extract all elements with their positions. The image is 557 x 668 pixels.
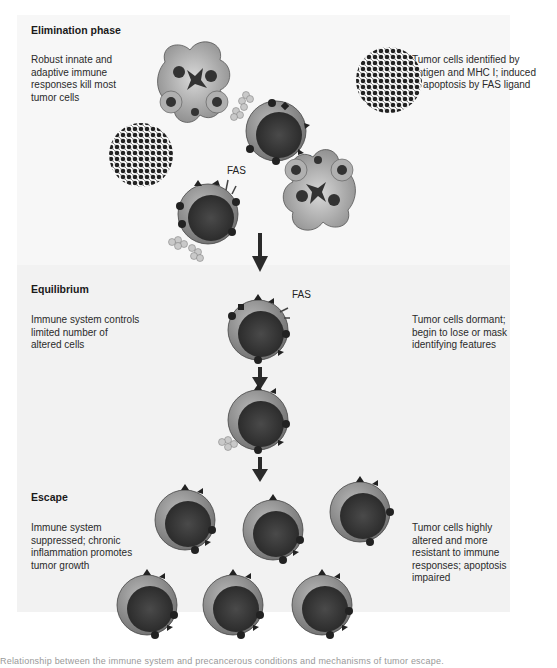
granular-cell — [109, 123, 173, 187]
tumor-cell — [243, 494, 304, 564]
diagram-artwork — [0, 0, 557, 668]
tumor-cell — [155, 484, 216, 554]
tumor-cell — [219, 384, 291, 454]
tumor-cell — [117, 569, 178, 639]
tumor-cell — [292, 569, 353, 639]
tumor-cell — [330, 476, 394, 546]
immune-cell-cluster-right — [283, 150, 355, 231]
arrow-down-icon — [252, 367, 268, 390]
tumor-cell — [203, 569, 264, 639]
granular-cell — [356, 47, 422, 113]
figure-caption: Relationship between the immune system a… — [0, 656, 557, 666]
immune-cell-cluster-top — [158, 42, 230, 123]
tumor-cell — [169, 180, 241, 262]
arrow-down-icon — [252, 233, 268, 272]
tumor-cell — [231, 92, 311, 166]
arrow-down-icon — [252, 457, 268, 482]
tumor-cell — [228, 294, 290, 364]
